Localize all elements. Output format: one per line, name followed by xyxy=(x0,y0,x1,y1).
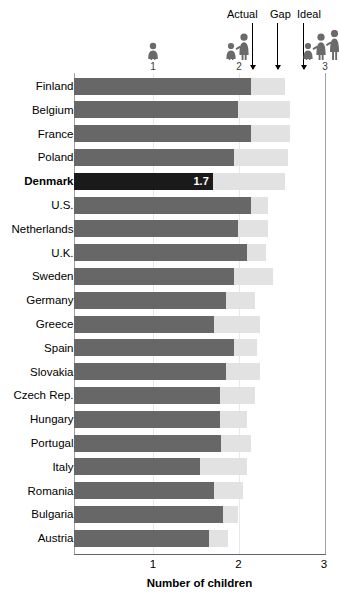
x-tick-label-2: 2 xyxy=(229,558,249,571)
table-row: Bulgaria xyxy=(0,506,339,523)
bar-actual xyxy=(74,339,235,356)
row-label-spain: Spain xyxy=(44,342,73,355)
table-row: Poland xyxy=(0,149,339,166)
bar-actual xyxy=(74,197,252,214)
row-label-u-k: U.K. xyxy=(51,247,73,260)
bar-actual xyxy=(74,482,215,499)
table-row: U.K. xyxy=(0,244,339,261)
row-label-u-s: U.S. xyxy=(51,199,73,212)
bar-actual xyxy=(74,316,215,333)
row-label-hungary: Hungary xyxy=(30,413,73,426)
table-row: Denmark1.7 xyxy=(0,173,339,190)
bar-actual xyxy=(74,268,235,285)
table-row: France xyxy=(0,125,339,142)
children-gap-chart: Actual Gap Ideal 1 2 xyxy=(0,0,339,597)
row-label-austria: Austria xyxy=(38,532,74,545)
table-row: Spain xyxy=(0,339,339,356)
bar-actual xyxy=(74,506,224,523)
row-label-greece: Greece xyxy=(36,318,74,331)
row-label-czech-rep: Czech Rep. xyxy=(13,389,73,402)
legend-arrow-gap xyxy=(277,23,278,69)
table-row: Greece xyxy=(0,316,339,333)
x-tick-label-3: 3 xyxy=(314,558,334,571)
one-child-icon xyxy=(146,42,160,60)
bar-actual xyxy=(74,435,222,452)
table-row: Netherlands xyxy=(0,220,339,237)
pictogram-number-2: 2 xyxy=(229,62,249,72)
table-row: Czech Rep. xyxy=(0,387,339,404)
row-label-italy: Italy xyxy=(52,461,73,474)
bar-actual xyxy=(74,101,239,118)
bar-actual xyxy=(74,244,247,261)
x-axis-line xyxy=(74,554,326,555)
legend-label-ideal: Ideal xyxy=(297,8,321,20)
bar-actual xyxy=(74,149,235,166)
bar-actual xyxy=(74,125,252,142)
two-children-icon xyxy=(225,33,253,60)
bar-actual xyxy=(74,220,239,237)
bar-actual xyxy=(74,292,226,309)
bar-actual xyxy=(74,387,220,404)
pictogram-number-3: 3 xyxy=(315,62,335,72)
table-row: Austria xyxy=(0,530,339,547)
bar-value-label: 1.7 xyxy=(193,176,208,187)
x-tick-label-1: 1 xyxy=(143,558,163,571)
table-row: U.S. xyxy=(0,197,339,214)
bar-actual xyxy=(74,458,200,475)
row-label-denmark: Denmark xyxy=(24,175,73,188)
x-axis-title: Number of children xyxy=(0,577,339,590)
table-row: Germany xyxy=(0,292,339,309)
row-label-finland: Finland xyxy=(36,80,74,93)
bar-actual xyxy=(74,411,220,428)
table-row: Italy xyxy=(0,458,339,475)
table-row: Finland xyxy=(0,78,339,95)
row-label-portugal: Portugal xyxy=(31,437,74,450)
row-label-poland: Poland xyxy=(38,151,74,164)
row-label-germany: Germany xyxy=(26,294,73,307)
row-label-netherlands: Netherlands xyxy=(11,223,73,236)
pictogram-number-1: 1 xyxy=(143,62,163,72)
row-label-bulgaria: Bulgaria xyxy=(31,508,73,521)
row-label-romania: Romania xyxy=(27,485,73,498)
bar-actual xyxy=(74,530,209,547)
row-label-belgium: Belgium xyxy=(32,104,74,117)
table-row: Sweden xyxy=(0,268,339,285)
bar-actual xyxy=(74,78,252,95)
table-row: Slovakia xyxy=(0,363,339,380)
table-row: Romania xyxy=(0,482,339,499)
bar-actual xyxy=(74,363,226,380)
bar-actual: 1.7 xyxy=(74,173,213,190)
table-row: Portugal xyxy=(0,435,339,452)
row-label-sweden: Sweden xyxy=(32,270,74,283)
legend-label-actual: Actual xyxy=(227,8,258,20)
row-label-france: France xyxy=(38,128,74,141)
table-row: Belgium xyxy=(0,101,339,118)
three-children-icon xyxy=(302,30,339,60)
table-row: Hungary xyxy=(0,411,339,428)
legend-label-gap: Gap xyxy=(270,8,291,20)
row-label-slovakia: Slovakia xyxy=(30,366,73,379)
